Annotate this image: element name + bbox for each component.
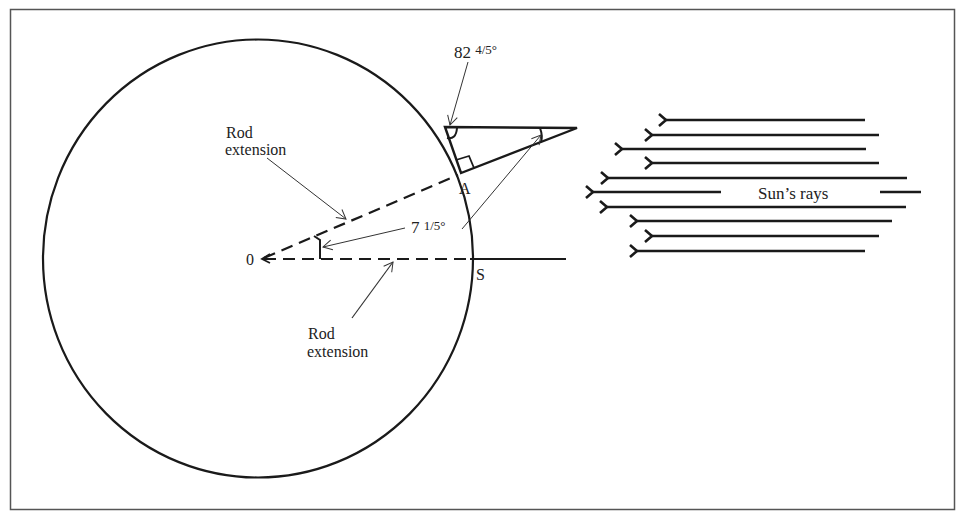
sun-rays bbox=[593, 120, 921, 251]
label-rod-extension-bottom-1: Rod bbox=[308, 325, 335, 342]
label-angle-top: 82 4/5° bbox=[454, 42, 497, 62]
leader-angle-tip bbox=[462, 135, 541, 229]
label-angle-center: 7 1/5° bbox=[411, 218, 446, 237]
rod-extension-slanted bbox=[264, 175, 458, 258]
leader-rod-extension-top bbox=[267, 158, 346, 219]
leader-angle-top bbox=[450, 62, 468, 125]
label-point-o: 0 bbox=[246, 251, 254, 268]
label-rod-extension-top-1: Rod bbox=[226, 124, 253, 141]
rod-shadow-triangle bbox=[445, 127, 577, 173]
leader-rod-extension-bottom bbox=[352, 262, 393, 318]
earth-sun-geometry-diagram: 82 4/5° 7 1/5° Rod extension Rod extensi… bbox=[0, 0, 964, 513]
leader-angle-center bbox=[323, 228, 405, 247]
label-point-a: A bbox=[459, 180, 471, 197]
label-sun-rays: Sun’s rays bbox=[758, 184, 828, 203]
label-rod-extension-top-2: extension bbox=[225, 141, 286, 158]
label-point-s: S bbox=[476, 266, 485, 283]
center-angle-arc bbox=[314, 236, 320, 259]
label-rod-extension-bottom-2: extension bbox=[307, 343, 368, 360]
